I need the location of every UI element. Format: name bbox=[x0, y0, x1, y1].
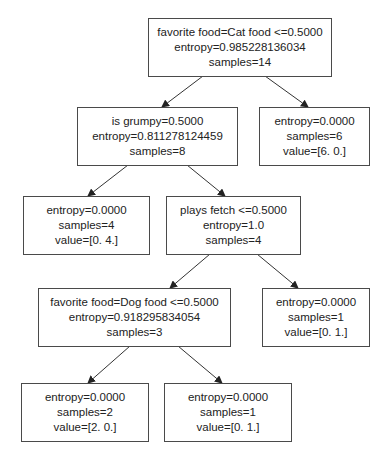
node-split: is grumpy=0.5000 bbox=[112, 114, 204, 129]
node-split: plays fetch <=0.5000 bbox=[180, 203, 287, 218]
node-value: value=[0. 4.] bbox=[55, 233, 118, 248]
node-value: value=[0. 1.] bbox=[285, 325, 348, 340]
tree-leaf-0-1-b: entropy=0.0000 samples=1 value=[0. 1.] bbox=[164, 383, 292, 442]
edge-root-leaf6 bbox=[265, 76, 308, 107]
edge-fetch-leaf1a bbox=[257, 254, 298, 288]
node-entropy: entropy=0.0000 bbox=[45, 390, 125, 405]
tree-node-fetch: plays fetch <=0.5000 entropy=1.0 samples… bbox=[166, 196, 301, 255]
node-value: value=[0. 1.] bbox=[197, 420, 260, 435]
node-samples: samples=4 bbox=[206, 233, 262, 248]
node-value: value=[6. 0.] bbox=[283, 144, 346, 159]
node-entropy: entropy=0.985228136034 bbox=[174, 40, 305, 55]
node-entropy: entropy=0.0000 bbox=[46, 203, 126, 218]
edge-grumpy-leaf4 bbox=[88, 165, 128, 196]
edge-dogfood-leaf2 bbox=[88, 346, 130, 383]
node-entropy: entropy=0.0000 bbox=[274, 114, 354, 129]
tree-leaf-6-0: entropy=0.0000 samples=6 value=[6. 0.] bbox=[259, 107, 370, 166]
node-entropy: entropy=0.811278124459 bbox=[92, 129, 223, 144]
tree-leaf-0-1-a: entropy=0.0000 samples=1 value=[0. 1.] bbox=[262, 288, 370, 347]
node-samples: samples=1 bbox=[288, 310, 344, 325]
tree-node-grumpy: is grumpy=0.5000 entropy=0.811278124459 … bbox=[77, 107, 238, 166]
node-value: value=[2. 0.] bbox=[54, 420, 117, 435]
edge-fetch-dogfood bbox=[170, 254, 210, 288]
node-samples: samples=1 bbox=[200, 405, 256, 420]
node-entropy: entropy=0.0000 bbox=[276, 295, 356, 310]
node-samples: samples=6 bbox=[287, 129, 343, 144]
tree-leaf-2-0: entropy=0.0000 samples=2 value=[2. 0.] bbox=[21, 383, 149, 442]
node-samples: samples=2 bbox=[57, 405, 113, 420]
edge-dogfood-leaf1b bbox=[178, 346, 222, 383]
node-entropy: entropy=0.0000 bbox=[188, 390, 268, 405]
edge-grumpy-fetch bbox=[187, 165, 225, 196]
node-entropy: entropy=0.918295834054 bbox=[69, 310, 200, 325]
node-split: favorite food=Cat food <=0.5000 bbox=[157, 25, 322, 40]
tree-node-dogfood: favorite food=Dog food <=0.5000 entropy=… bbox=[38, 288, 231, 347]
node-samples: samples=4 bbox=[59, 218, 115, 233]
edge-root-grumpy bbox=[162, 76, 203, 107]
node-split: favorite food=Dog food <=0.5000 bbox=[50, 295, 218, 310]
node-samples: samples=3 bbox=[107, 325, 163, 340]
tree-leaf-0-4: entropy=0.0000 samples=4 value=[0. 4.] bbox=[23, 196, 150, 255]
node-samples: samples=14 bbox=[209, 55, 271, 70]
node-entropy: entropy=1.0 bbox=[203, 218, 264, 233]
tree-node-root: favorite food=Cat food <=0.5000 entropy=… bbox=[148, 18, 332, 77]
node-samples: samples=8 bbox=[130, 144, 186, 159]
